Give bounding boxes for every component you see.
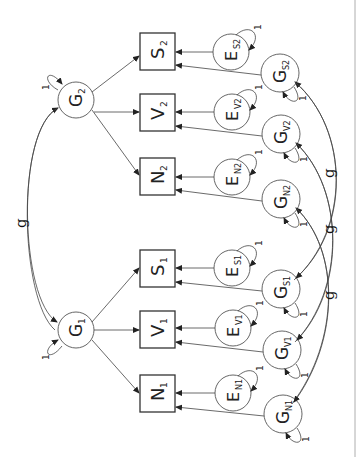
svg-text:E: E (223, 176, 242, 186)
svg-text:N1: N1 (285, 400, 294, 411)
svg-text:V1: V1 (284, 336, 293, 347)
svg-text:S1: S1 (283, 276, 292, 286)
covariance-gs2-gs1 (295, 82, 336, 278)
svg-text:G: G (271, 196, 291, 209)
svg-text:2: 2 (159, 101, 169, 107)
svg-text:V: V (147, 324, 168, 337)
covariance-label-gs: g (320, 168, 338, 178)
variance-loop-g1 (48, 340, 62, 355)
svg-text:1: 1 (253, 24, 263, 30)
svg-text:V1: V1 (235, 314, 244, 325)
svg-text:N2: N2 (234, 163, 243, 174)
error-en2: EN2 1 (176, 149, 264, 195)
svg-text:1: 1 (159, 257, 169, 263)
svg-text:N2: N2 (283, 185, 292, 196)
error-es2: ES2 1 (176, 24, 263, 70)
svg-text:1: 1 (77, 318, 87, 324)
error-ev2: EV2 1 (176, 84, 264, 130)
latent-g1: G 1 1 (41, 312, 94, 360)
svg-text:1: 1 (254, 240, 264, 246)
svg-text:E: E (224, 392, 243, 402)
svg-text:1: 1 (299, 221, 309, 227)
covariance-gs1-gs2 (294, 82, 336, 280)
svg-text:2: 2 (77, 88, 87, 94)
covariance-label-g: g (12, 218, 30, 228)
svg-text:G: G (271, 131, 291, 144)
svg-text:N: N (147, 171, 168, 184)
loading-g1-n1 (92, 340, 139, 393)
svg-text:E: E (222, 51, 241, 61)
svg-text:1: 1 (41, 354, 51, 360)
svg-text:1: 1 (299, 311, 309, 317)
latent-g2: G 2 1 (41, 75, 94, 118)
error-en1: EN1 1 (176, 365, 265, 411)
error-ev1: EV1 1 (176, 300, 265, 346)
svg-text:1: 1 (255, 300, 265, 306)
covariance-g1-g2 (27, 108, 58, 330)
svg-text:N: N (147, 388, 168, 401)
svg-text:E: E (223, 111, 242, 121)
covariance-label-gv: g (320, 224, 338, 234)
svg-text:G: G (271, 286, 291, 299)
svg-text:V: V (147, 107, 168, 120)
svg-text:G: G (66, 324, 86, 337)
covariance-label-gn: g (320, 290, 338, 300)
svg-text:G: G (270, 70, 290, 83)
svg-text:1: 1 (159, 318, 169, 324)
loading-g2-n2 (92, 110, 139, 175)
loading-g1-s1 (92, 268, 139, 322)
covariance-g2-g1 (27, 108, 58, 322)
svg-text:E: E (223, 267, 242, 277)
svg-text:1: 1 (301, 436, 311, 442)
sem-diagram: g G 2 1 G 1 1 S 2 V 2 (0, 0, 360, 457)
svg-text:E: E (224, 327, 243, 337)
loading-g2-s2 (92, 56, 139, 92)
svg-text:S1: S1 (234, 255, 243, 265)
svg-text:V2: V2 (283, 120, 292, 131)
observed-v2: V 2 (140, 94, 175, 131)
svg-text:S: S (147, 265, 168, 276)
observed-v1: V 1 (140, 311, 175, 348)
svg-text:1: 1 (159, 382, 169, 388)
svg-text:N1: N1 (235, 379, 244, 390)
svg-text:G: G (66, 94, 86, 107)
svg-text:1: 1 (41, 84, 51, 90)
svg-text:1: 1 (255, 365, 265, 371)
svg-text:S2: S2 (233, 39, 242, 49)
svg-text:S2: S2 (282, 60, 291, 70)
svg-text:2: 2 (159, 165, 169, 171)
error-es1: ES1 1 (176, 240, 264, 286)
svg-text:S: S (147, 48, 168, 59)
svg-text:G: G (273, 411, 293, 424)
svg-text:1: 1 (299, 156, 309, 162)
svg-text:1: 1 (254, 149, 264, 155)
svg-text:V2: V2 (234, 98, 243, 109)
observed-n1: N 1 (140, 375, 175, 412)
svg-text:2: 2 (159, 40, 169, 46)
observed-s1: S 1 (140, 250, 175, 287)
svg-text:1: 1 (298, 95, 308, 101)
svg-text:G: G (272, 347, 292, 360)
observed-n2: N 2 (140, 158, 175, 195)
observed-s2: S 2 (140, 33, 175, 70)
svg-text:1: 1 (254, 84, 264, 90)
